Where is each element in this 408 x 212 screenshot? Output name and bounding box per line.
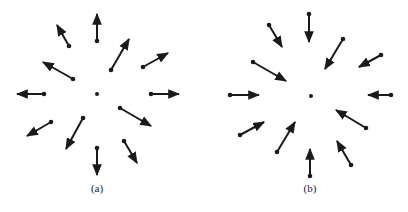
vector-arrow	[109, 39, 129, 72]
vector-arrow	[228, 93, 259, 98]
vector-arrow	[122, 139, 137, 163]
vector-arrow	[336, 110, 368, 130]
center-point	[95, 92, 99, 96]
vector-arrow	[95, 146, 100, 175]
panel-a-label: (a)	[91, 182, 104, 195]
arrow-tail-dot-icon	[307, 12, 312, 17]
vector-arrow	[27, 120, 53, 136]
vector-arrow	[359, 53, 383, 67]
panel-a-source-field	[17, 14, 179, 175]
arrow-tail-dot-icon	[49, 120, 54, 125]
arrow-tail-dot-icon	[379, 53, 384, 58]
vector-arrow	[251, 60, 286, 81]
arrow-shaft-icon	[66, 118, 83, 149]
vector-arrow	[368, 93, 393, 98]
arrow-shaft-icon	[240, 122, 264, 135]
arrow-shaft-icon	[143, 53, 168, 67]
vector-arrow	[337, 141, 353, 167]
arrow-tail-dot-icon	[118, 106, 123, 111]
vector-arrow	[325, 37, 345, 69]
vector-arrow	[66, 116, 85, 149]
arrow-shaft-icon	[337, 141, 351, 165]
arrow-shaft-icon	[359, 55, 381, 67]
arrow-tail-dot-icon	[364, 126, 369, 131]
arrow-tail-dot-icon	[122, 139, 127, 144]
panel-b-label: (b)	[304, 182, 317, 195]
arrow-shaft-icon	[325, 39, 343, 69]
arrow-tail-dot-icon	[228, 93, 233, 98]
arrow-tail-dot-icon	[95, 39, 100, 44]
arrow-shaft-icon	[57, 25, 69, 46]
vector-arrow	[238, 122, 264, 137]
arrow-shaft-icon	[124, 141, 137, 163]
center-point	[309, 94, 313, 98]
arrow-tail-dot-icon	[71, 77, 76, 82]
vector-arrow	[267, 23, 282, 47]
vector-arrow	[17, 92, 46, 97]
vector-field-figure: (a) (b)	[0, 0, 408, 212]
vector-arrow	[307, 12, 312, 42]
arrow-tail-dot-icon	[109, 68, 114, 73]
arrow-shaft-icon	[111, 39, 129, 70]
vector-arrow	[149, 92, 179, 97]
arrow-tail-dot-icon	[42, 92, 47, 97]
arrow-tail-dot-icon	[95, 146, 100, 151]
arrow-shaft-icon	[253, 62, 286, 81]
arrow-shaft-icon	[27, 122, 51, 136]
arrow-tail-dot-icon	[349, 163, 354, 168]
arrow-tail-dot-icon	[141, 65, 146, 70]
arrow-tail-dot-icon	[275, 150, 280, 155]
vector-arrow	[118, 106, 151, 126]
arrow-tail-dot-icon	[308, 174, 313, 179]
arrow-tail-dot-icon	[251, 60, 256, 65]
arrow-shaft-icon	[120, 108, 151, 126]
panel-b-sink-field	[228, 12, 394, 179]
vector-arrow	[95, 14, 100, 43]
vector-arrow	[308, 149, 313, 178]
arrow-tail-dot-icon	[149, 92, 154, 97]
arrow-shaft-icon	[336, 110, 366, 128]
arrow-shaft-icon	[269, 25, 282, 47]
arrow-shaft-icon	[43, 62, 73, 79]
vector-arrow	[57, 25, 71, 48]
arrow-tail-dot-icon	[238, 133, 243, 138]
vector-arrow	[275, 122, 295, 154]
arrow-tail-dot-icon	[81, 116, 86, 121]
arrow-tail-dot-icon	[267, 23, 272, 28]
arrow-tail-dot-icon	[389, 93, 394, 98]
arrow-tail-dot-icon	[67, 44, 72, 49]
arrow-tail-dot-icon	[341, 37, 346, 42]
arrow-shaft-icon	[277, 122, 295, 152]
vector-arrow	[141, 53, 168, 69]
vector-arrow	[43, 62, 75, 81]
